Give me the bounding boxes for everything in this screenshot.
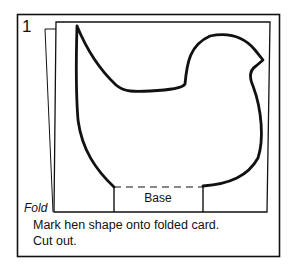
step-number: 1 (22, 18, 31, 35)
front-card (54, 22, 270, 212)
hen-outline (76, 26, 263, 187)
caption-line-2: Cut out. (33, 233, 219, 249)
instruction-caption: Mark hen shape onto folded card. Cut out… (33, 217, 219, 249)
caption-line-1: Mark hen shape onto folded card. (33, 217, 219, 233)
fold-label: Fold (24, 201, 47, 215)
base-label: Base (138, 191, 178, 205)
